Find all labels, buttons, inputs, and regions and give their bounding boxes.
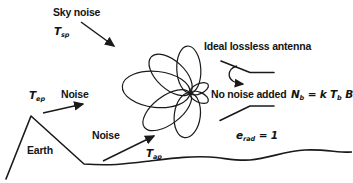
noise-power-formula: Nb = k Tb B bbox=[291, 89, 353, 100]
t-bottom-base: T bbox=[146, 147, 153, 159]
bottom-noise-label: Noise bbox=[92, 130, 120, 141]
sky-temperature-symbol: Tsp bbox=[54, 26, 70, 37]
left-temperature-symbol: Tep bbox=[29, 90, 45, 101]
efficiency-value: = 1 bbox=[255, 129, 278, 141]
earth-noise-arrow bbox=[43, 104, 83, 113]
ideal-antenna-label: Ideal lossless antenna bbox=[204, 41, 311, 52]
efficiency-subscript: rad bbox=[243, 135, 255, 143]
antenna-pattern bbox=[121, 45, 211, 139]
no-noise-added-label: No noise added bbox=[211, 89, 286, 100]
earth-label: Earth bbox=[27, 145, 53, 156]
left-noise-label: Noise bbox=[61, 89, 89, 100]
formula-k: k bbox=[320, 88, 327, 100]
radiation-efficiency-symbol: erad = 1 bbox=[236, 130, 278, 141]
sky-noise-label: Sky noise bbox=[53, 7, 100, 18]
formula-b: B bbox=[345, 88, 353, 100]
feed-bottom-conductor bbox=[220, 106, 274, 121]
t-bottom-subscript: ap bbox=[153, 153, 162, 161]
bottom-temperature-symbol: Tap bbox=[146, 148, 162, 159]
formula-t-subscript: b bbox=[337, 94, 342, 102]
formula-t: T bbox=[330, 88, 337, 100]
t-sky-base: T bbox=[54, 25, 61, 37]
t-left-base: T bbox=[29, 89, 36, 101]
sky-noise-arrow bbox=[81, 22, 114, 46]
t-sky-subscript: sp bbox=[61, 31, 70, 39]
feed-top-conductor bbox=[221, 61, 274, 73]
efficiency-base: e bbox=[236, 129, 243, 141]
t-left-subscript: ep bbox=[36, 95, 45, 103]
earth-outline bbox=[6, 116, 352, 179]
formula-n: N bbox=[291, 88, 300, 100]
formula-equals: = bbox=[304, 88, 320, 100]
